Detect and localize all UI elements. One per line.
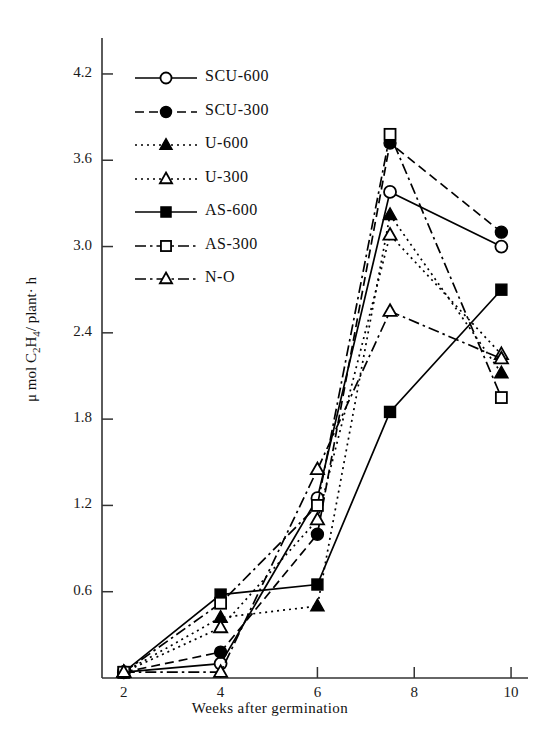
y-axis-title: μ mol C2H4/ plant· h — [23, 220, 42, 460]
data-point-marker — [383, 304, 396, 316]
data-point-marker — [385, 129, 396, 140]
y-tick-label: 1.8 — [40, 409, 92, 426]
nitrogenase-activity-line-chart — [0, 0, 540, 737]
data-point-marker — [384, 186, 396, 198]
data-point-marker — [312, 500, 323, 511]
y-axis-title-sub1: 2 — [30, 348, 42, 354]
data-point-marker — [383, 228, 396, 240]
x-tick-label: 4 — [195, 684, 247, 701]
x-tick-label: 10 — [485, 684, 537, 701]
legend-marker-icon — [133, 234, 199, 258]
x-tick-label: 2 — [98, 684, 150, 701]
data-point-marker — [311, 462, 324, 474]
data-point-marker — [311, 599, 324, 611]
x-tick-label: 6 — [291, 684, 343, 701]
x-axis-title: Weeks after germination — [0, 700, 540, 717]
data-point-marker — [496, 392, 507, 403]
series-line — [124, 311, 502, 672]
legend-marker-icon — [133, 200, 199, 224]
legend-label: SCU-600 — [205, 67, 269, 85]
legend-marker-icon — [133, 100, 199, 124]
data-point-marker — [160, 172, 172, 183]
y-tick-label: 4.2 — [40, 64, 92, 81]
data-point-marker — [160, 273, 172, 284]
y-axis-title-suffix: / plant· h — [23, 277, 39, 331]
y-tick-label: 1.2 — [40, 495, 92, 512]
legend-label: N-O — [205, 268, 235, 286]
legend-label: SCU-300 — [205, 101, 269, 119]
data-point-marker — [215, 598, 226, 609]
legend-label: AS-300 — [205, 235, 258, 253]
legend-marker-icon — [133, 133, 199, 157]
data-point-marker — [495, 241, 507, 253]
data-point-marker — [215, 646, 227, 658]
data-point-marker — [495, 226, 507, 238]
x-tick-label: 8 — [388, 684, 440, 701]
y-tick-label: 3.6 — [40, 150, 92, 167]
series-n-o — [117, 304, 508, 677]
y-axis-title-mid: H — [23, 337, 39, 348]
y-tick-label: 3.0 — [40, 237, 92, 254]
y-axis-title-sub2: 4 — [30, 331, 42, 337]
data-point-marker — [161, 240, 171, 250]
data-point-marker — [311, 528, 323, 540]
data-point-marker — [160, 139, 172, 150]
data-point-marker — [496, 284, 507, 295]
data-point-marker — [160, 72, 171, 83]
y-axis-title-prefix: μ mol C — [23, 353, 39, 402]
y-tick-label: 2.4 — [40, 323, 92, 340]
data-point-marker — [161, 207, 171, 217]
legend-label: U-600 — [205, 134, 248, 152]
legend-label: U-300 — [205, 168, 248, 186]
data-point-marker — [385, 406, 396, 417]
data-point-marker — [311, 513, 324, 525]
data-point-marker — [312, 579, 323, 590]
legend-label: AS-600 — [205, 201, 258, 219]
legend-marker-icon — [133, 267, 199, 291]
legend-marker-icon — [133, 66, 199, 90]
y-axis-ticks — [102, 74, 113, 592]
legend-marker-icon — [133, 167, 199, 191]
y-tick-label: 0.6 — [40, 582, 92, 599]
series-scu-600 — [118, 186, 508, 678]
data-point-marker — [160, 106, 171, 117]
